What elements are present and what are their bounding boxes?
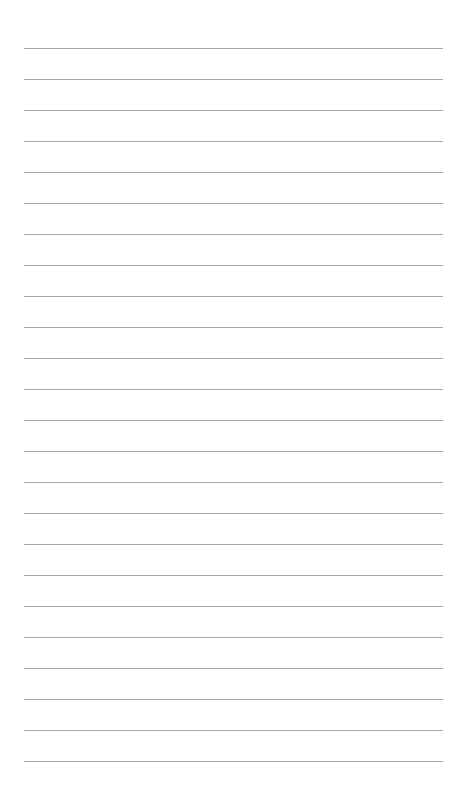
ruled-line (24, 482, 443, 483)
ruled-line (24, 730, 443, 731)
ruled-line (24, 172, 443, 173)
ruled-line (24, 265, 443, 266)
ruled-line (24, 79, 443, 80)
ruled-line (24, 48, 443, 49)
lined-paper-page (0, 0, 465, 799)
ruled-line (24, 637, 443, 638)
ruled-line (24, 668, 443, 669)
ruled-line (24, 141, 443, 142)
ruled-line (24, 451, 443, 452)
ruled-line (24, 358, 443, 359)
ruled-line (24, 513, 443, 514)
ruled-line (24, 544, 443, 545)
ruled-line (24, 575, 443, 576)
ruled-line (24, 699, 443, 700)
ruled-line (24, 327, 443, 328)
ruled-line (24, 420, 443, 421)
ruled-line (24, 761, 443, 762)
ruled-line (24, 203, 443, 204)
ruled-line (24, 389, 443, 390)
ruled-line (24, 296, 443, 297)
ruled-line (24, 234, 443, 235)
ruled-line (24, 110, 443, 111)
ruled-line (24, 606, 443, 607)
